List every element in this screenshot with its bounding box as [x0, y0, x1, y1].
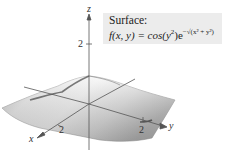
y-axis-arrow-icon [160, 123, 167, 129]
y-tick-label: 2 [139, 124, 144, 135]
surface-label-box: Surface: f(x, y) = cos(y2)e−√(x² + y²) [103, 13, 222, 44]
x-axis-label: x [29, 133, 33, 144]
surface-label-title: Surface: [109, 14, 147, 26]
x-tick-label: 2 [59, 124, 64, 135]
formula-exponent: −√(x² + y²) [183, 28, 214, 36]
formula-prefix: f(x, y) = cos(y [109, 29, 171, 41]
y-axis-label: y [169, 120, 173, 131]
z-axis-arrow-icon [87, 14, 91, 20]
z-axis-label: z [87, 3, 91, 14]
surface-figure: Surface: f(x, y) = cos(y2)e−√(x² + y²) z… [0, 0, 225, 164]
z-tick-label: 2 [78, 38, 83, 49]
x-axis-arrow-icon [37, 132, 45, 138]
surface-sheet [2, 76, 175, 141]
surface-formula: f(x, y) = cos(y2)e−√(x² + y²) [109, 28, 214, 41]
formula-mid: )e [174, 29, 183, 41]
